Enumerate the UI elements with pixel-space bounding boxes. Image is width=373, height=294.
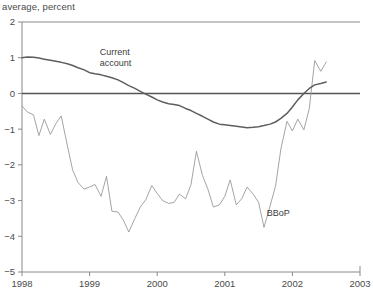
chart-series — [22, 57, 326, 232]
y-tick-label: −4 — [4, 231, 15, 242]
series-line-bbop — [22, 61, 326, 232]
y-tick-label: −1 — [4, 124, 15, 135]
x-tick-label: 1998 — [11, 278, 32, 289]
annotation-current-account-line2: account — [100, 58, 132, 68]
chart-annotations: CurrentaccountBBoP — [100, 47, 290, 218]
x-tick-label: 2000 — [147, 278, 168, 289]
chart-container: average, percent 210−1−2−3−4−5 199819992… — [0, 0, 373, 294]
y-tick-label: 2 — [10, 16, 15, 27]
annotation-current-account: Current — [100, 47, 131, 57]
y-tick-label: −3 — [4, 195, 15, 206]
x-tick-label: 2002 — [282, 278, 303, 289]
y-tick-label: 1 — [10, 52, 15, 63]
chart-plot-svg: 210−1−2−3−4−5 199819992000200120022003 C… — [0, 0, 373, 294]
y-tick-label: −2 — [4, 159, 15, 170]
y-axis-ticks: 210−1−2−3−4−5 — [4, 16, 22, 277]
annotation-bbop: BBoP — [267, 208, 290, 218]
x-tick-label: 2001 — [214, 278, 235, 289]
chart-axes — [22, 22, 360, 272]
x-axis-ticks: 199819992000200120022003 — [11, 272, 370, 289]
x-tick-label: 1999 — [79, 278, 100, 289]
series-line-current-account — [22, 57, 326, 128]
y-tick-label: −5 — [4, 266, 15, 277]
y-tick-label: 0 — [10, 88, 15, 99]
x-tick-label: 2003 — [349, 278, 370, 289]
